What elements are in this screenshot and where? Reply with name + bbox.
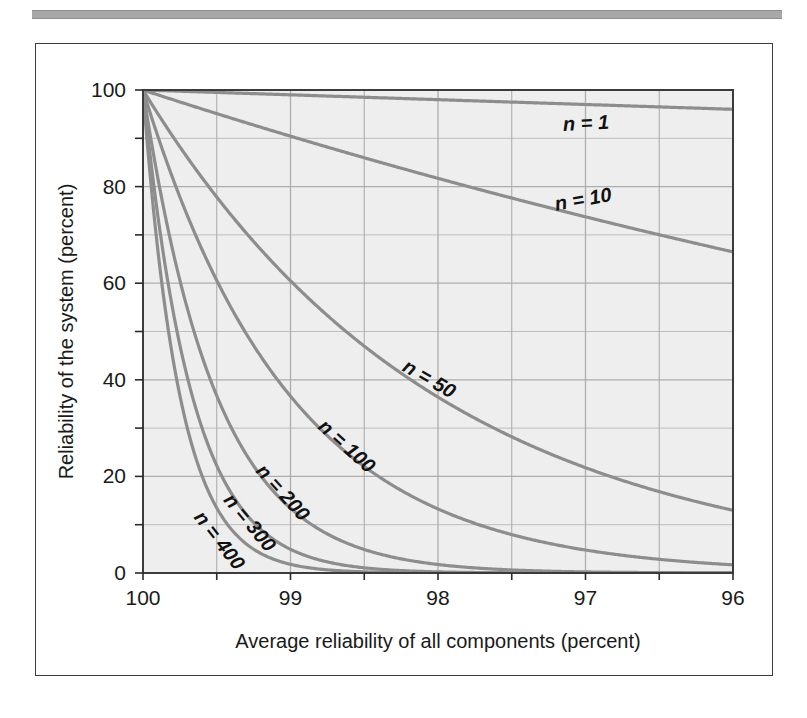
y-tick-label-20: 20 xyxy=(103,464,126,487)
y-tick-label-0: 0 xyxy=(114,561,126,584)
y-axis-title: Reliability of the system (percent) xyxy=(55,184,77,480)
x-tick-label-97: 97 xyxy=(574,586,597,609)
x-axis-tick-labels: 10099989796 xyxy=(125,586,744,609)
x-tick-label-100: 100 xyxy=(125,586,160,609)
series-label-n1: n = 1 xyxy=(562,111,609,135)
y-tick-label-80: 80 xyxy=(103,175,126,198)
y-tick-label-100: 100 xyxy=(91,78,126,101)
chart-svg: 10099989796 100806040200 n = 1n = 10n = … xyxy=(35,43,773,676)
y-tick-label-60: 60 xyxy=(103,271,126,294)
x-tick-label-96: 96 xyxy=(721,586,744,609)
reliability-chart: 10099989796 100806040200 n = 1n = 10n = … xyxy=(35,43,773,676)
top-divider-rule xyxy=(32,10,782,19)
y-axis-tick-labels: 100806040200 xyxy=(91,78,126,584)
x-axis-title: Average reliability of all components (p… xyxy=(235,630,640,652)
x-tick-label-99: 99 xyxy=(279,586,302,609)
y-tick-label-40: 40 xyxy=(103,368,126,391)
x-tick-label-98: 98 xyxy=(426,586,449,609)
